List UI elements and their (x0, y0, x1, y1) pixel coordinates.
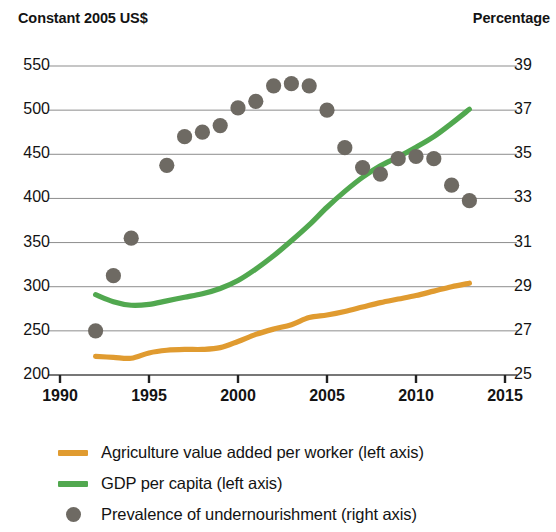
legend-label: GDP per capita (left axis) (101, 474, 282, 493)
chart-figure: Constant 2005 US$ Percentage 20025030035… (0, 0, 556, 532)
right-axis-caption: Percentage (473, 10, 550, 26)
scatter-point (391, 151, 406, 166)
scatter-point (266, 78, 281, 93)
legend-dot-icon (57, 499, 89, 531)
right-axis-tick-label: 31 (514, 233, 556, 251)
scatter-point (302, 78, 317, 93)
left-axis-tick-label: 300 (4, 277, 50, 295)
left-axis-tick-label: 550 (4, 56, 50, 74)
right-axis-tick-label: 35 (514, 144, 556, 162)
x-tick-marks (60, 375, 505, 383)
plot-svg (0, 55, 556, 385)
series-lines (96, 109, 470, 358)
scatter-point (88, 323, 103, 338)
plot-area (0, 55, 556, 385)
right-axis-tick-label: 39 (514, 56, 556, 74)
legend-label: Prevalence of undernourishment (right ax… (101, 505, 417, 524)
scatter-point (462, 193, 477, 208)
legend-item-agriculture[interactable]: Agriculture value added per worker (left… (0, 437, 556, 468)
x-axis-tick-label: 1990 (25, 387, 95, 405)
x-axis-tick-label: 2000 (203, 387, 273, 405)
right-axis-tick-label: 37 (514, 100, 556, 118)
legend-item-undernourishment[interactable]: Prevalence of undernourishment (right ax… (0, 499, 556, 530)
legend-line-icon (57, 437, 89, 469)
scatter-point (408, 149, 423, 164)
scatter-point (373, 167, 388, 182)
scatter-point (444, 178, 459, 193)
scatter-point (106, 268, 121, 283)
scatter-point (284, 76, 299, 91)
scatter-point (248, 94, 263, 109)
scatter-point (159, 158, 174, 173)
left-axis-caption: Constant 2005 US$ (18, 10, 148, 26)
right-axis-tick-label: 27 (514, 321, 556, 339)
scatter-point (177, 129, 192, 144)
series-line (96, 283, 470, 358)
left-axis-tick-label: 500 (4, 100, 50, 118)
x-axis-tick-label: 2010 (381, 387, 451, 405)
chart-legend: Agriculture value added per worker (left… (0, 437, 556, 530)
right-axis-tick-label: 33 (514, 188, 556, 206)
x-axis-tick-label: 1995 (114, 387, 184, 405)
legend-label: Agriculture value added per worker (left… (101, 443, 424, 462)
scatter-point (124, 231, 139, 246)
scatter-point (319, 103, 334, 118)
scatter-point (230, 100, 245, 115)
left-axis-tick-label: 350 (4, 233, 50, 251)
left-axis-tick-label: 250 (4, 321, 50, 339)
legend-item-gdp[interactable]: GDP per capita (left axis) (0, 468, 556, 499)
x-axis-tick-label: 2015 (470, 387, 540, 405)
left-axis-tick-label: 400 (4, 188, 50, 206)
x-axis-tick-label: 2005 (292, 387, 362, 405)
series-line (96, 109, 470, 305)
legend-marker (58, 450, 88, 456)
legend-line-icon (57, 468, 89, 500)
scatter-point (426, 151, 441, 166)
legend-marker (66, 507, 81, 522)
right-axis-tick-label: 25 (514, 365, 556, 383)
right-axis-tick-label: 29 (514, 277, 556, 295)
legend-marker (58, 481, 88, 487)
scatter-point (337, 140, 352, 155)
left-axis-tick-label: 450 (4, 144, 50, 162)
scatter-point (195, 125, 210, 140)
scatter-point (355, 160, 370, 175)
series-points (88, 76, 477, 338)
left-axis-tick-label: 200 (4, 365, 50, 383)
scatter-point (213, 118, 228, 133)
